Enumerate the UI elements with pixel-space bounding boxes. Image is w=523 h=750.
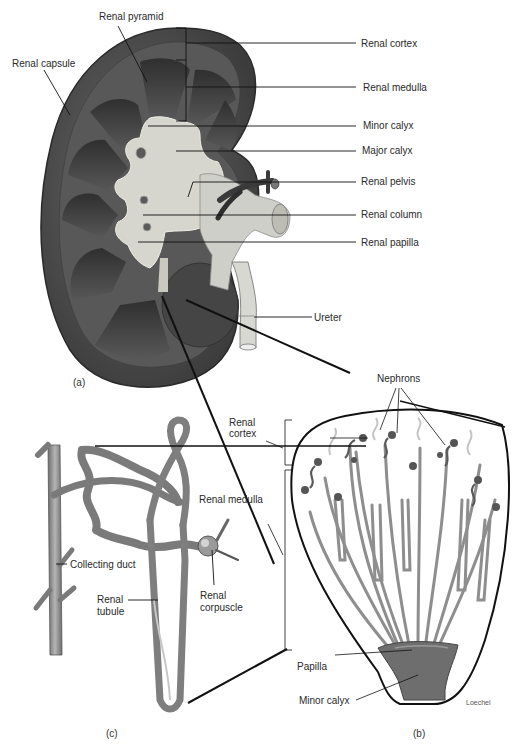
label-renal-pyramid: Renal pyramid [99, 11, 163, 22]
label-renal-cortex-b-line2: cortex [229, 428, 256, 439]
label-major-calyx: Major calyx [362, 145, 413, 156]
label-collecting-duct: Collecting duct [70, 559, 136, 570]
label-renal-column: Renal column [361, 209, 422, 220]
label-renal-cortex: Renal cortex [361, 38, 417, 49]
label-minor-calyx: Minor calyx [363, 120, 414, 131]
label-renal-tubule-line2: tubule [97, 606, 124, 617]
label-renal-capsule: Renal capsule [12, 58, 75, 69]
label-renal-corpuscle-line1: Renal [200, 590, 226, 601]
label-minor-calyx-b: Minor calyx [299, 695, 350, 706]
label-renal-medulla: Renal medulla [363, 82, 427, 93]
artist-signature: Loechel [466, 697, 491, 708]
label-renal-cortex-b-line1: Renal [229, 417, 255, 428]
label-papilla: Papilla [297, 661, 327, 672]
label-renal-papilla: Renal papilla [361, 237, 419, 248]
nephron-detail [36, 420, 238, 709]
label-nephrons: Nephrons [377, 373, 420, 384]
label-renal-tubule-line1: Renal [97, 594, 123, 605]
label-renal-pelvis: Renal pelvis [361, 176, 415, 187]
label-renal-corpuscle-line2: corpuscle [200, 602, 243, 613]
panel-label-c: (c) [106, 728, 118, 739]
kidney-anatomy-illustration [0, 0, 523, 750]
label-ureter: Ureter [314, 312, 342, 323]
label-renal-medulla-b: Renal medulla [199, 494, 263, 505]
panel-label-a: (a) [73, 377, 85, 388]
panel-label-b: (b) [413, 728, 425, 739]
pyramid-detail [291, 410, 509, 705]
kidney-section [41, 28, 290, 387]
